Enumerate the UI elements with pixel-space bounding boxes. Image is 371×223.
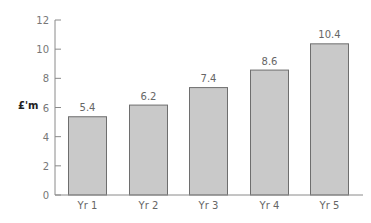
y-tick-label: 6 bbox=[43, 103, 49, 114]
y-tick-label: 4 bbox=[43, 132, 49, 143]
y-tick-label: 12 bbox=[36, 15, 49, 26]
x-category-label: Yr 3 bbox=[198, 200, 219, 211]
x-category-label: Yr 5 bbox=[319, 200, 340, 211]
x-category-label: Yr 2 bbox=[138, 200, 159, 211]
bar bbox=[311, 44, 349, 195]
bar-chart: £'m 024681012 5.4Yr 16.2Yr 27.4Yr 38.6Yr… bbox=[0, 0, 371, 223]
y-axis-label: £'m bbox=[18, 100, 38, 111]
bar bbox=[251, 70, 289, 195]
y-tick-label: 0 bbox=[43, 190, 49, 201]
y-tick-label: 2 bbox=[43, 161, 49, 172]
bars: 5.4Yr 16.2Yr 27.4Yr 38.6Yr 410.4Yr 5 bbox=[69, 29, 349, 211]
bar bbox=[130, 105, 168, 195]
bar-value-label: 5.4 bbox=[80, 102, 96, 113]
bar-group: 10.4Yr 5 bbox=[311, 29, 349, 211]
bar-value-label: 7.4 bbox=[201, 73, 217, 84]
y-tick-label: 10 bbox=[36, 44, 49, 55]
bar-value-label: 8.6 bbox=[262, 56, 278, 67]
x-category-label: Yr 1 bbox=[77, 200, 98, 211]
x-category-label: Yr 4 bbox=[259, 200, 280, 211]
bar bbox=[190, 88, 228, 195]
bar-group: 8.6Yr 4 bbox=[251, 56, 289, 211]
bar bbox=[69, 117, 107, 195]
bar-group: 6.2Yr 2 bbox=[130, 91, 168, 211]
bar-value-label: 6.2 bbox=[141, 91, 157, 102]
bar-group: 7.4Yr 3 bbox=[190, 73, 228, 211]
y-tick-label: 8 bbox=[43, 73, 49, 84]
bar-value-label: 10.4 bbox=[318, 29, 340, 40]
y-axis: 024681012 bbox=[36, 15, 61, 201]
